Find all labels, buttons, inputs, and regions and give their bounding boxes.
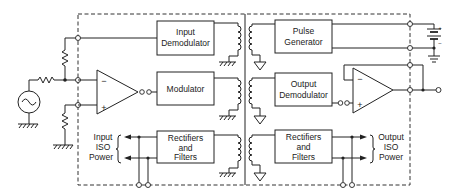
output-iso-label-1: Output <box>378 132 404 142</box>
output-opamp-minus: − <box>357 74 362 84</box>
output-demodulator-label-2: Demodulator <box>279 90 328 100</box>
pin-feedback <box>408 63 413 68</box>
input-demodulator-label-2: Demodulator <box>161 38 210 48</box>
output-opamp: − + <box>332 65 410 113</box>
input-demodulator-label-1: Input <box>176 27 196 37</box>
rect-right-label-2: and <box>296 142 310 152</box>
modulator-label: Modulator <box>167 84 205 94</box>
output-demodulator-block: Output Demodulator <box>275 73 332 106</box>
battery-icon: + − <box>413 24 443 62</box>
battery-minus: − <box>438 40 442 46</box>
battery-plus: + <box>438 25 442 31</box>
input-opamp: − + <box>78 70 157 114</box>
output-terminal <box>436 88 441 93</box>
rect-left-label-1: Rectifiers <box>168 133 203 143</box>
isolation-amplifier-diagram: Input Demodulator Modulator Rectifiers a… <box>0 0 453 194</box>
output-iso-power: Output ISO Power <box>332 132 404 188</box>
output-opamp-plus: + <box>357 100 362 110</box>
input-iso-label-3: Power <box>89 152 113 162</box>
input-opamp-minus: − <box>101 76 106 86</box>
output-demodulator-label-1: Output <box>291 79 317 89</box>
input-iso-power: Input ISO Power <box>89 132 157 188</box>
pulse-generator-label-1: Pulse <box>293 26 315 36</box>
input-iso-label-2: ISO <box>96 142 111 152</box>
pin-demod-feedback <box>76 36 81 41</box>
pin-supply-plus <box>408 22 413 27</box>
pulse-generator-label-2: Generator <box>284 37 322 47</box>
output-iso-label-2: ISO <box>384 142 399 152</box>
rect-left-label-3: Filters <box>174 152 197 162</box>
pin-output <box>408 88 413 93</box>
ac-source-icon <box>18 84 40 128</box>
rect-right-label-1: Rectifiers <box>286 132 321 142</box>
rect-right-label-3: Filters <box>292 152 315 162</box>
output-iso-label-3: Power <box>379 152 403 162</box>
modulator-block: Modulator <box>157 72 214 105</box>
input-iso-label-1: Input <box>94 132 114 142</box>
pulse-generator-block: Pulse Generator <box>275 20 332 53</box>
rectifiers-filters-right-block: Rectifiers and Filters <box>275 130 332 163</box>
pin-supply-common <box>408 46 413 51</box>
input-opamp-plus: + <box>101 103 106 113</box>
input-demodulator-block: Input Demodulator <box>157 21 214 55</box>
rectifiers-filters-left-block: Rectifiers and Filters <box>157 131 214 163</box>
